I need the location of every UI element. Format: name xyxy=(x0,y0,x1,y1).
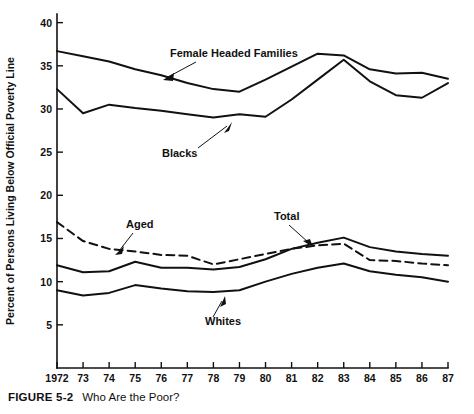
annotation-leader-aged xyxy=(119,233,133,251)
annotation-label-whites: Whites xyxy=(205,315,241,327)
y-tick-label: 30 xyxy=(40,103,52,115)
x-tick-label: 85 xyxy=(390,372,402,384)
figure-caption: FIGURE 5-2 Who Are the Poor? xyxy=(8,391,466,403)
annotation-label-female-headed-families: Female Headed Families xyxy=(170,47,298,59)
x-tick-label: 74 xyxy=(103,372,115,384)
annotation-total: Total xyxy=(274,210,313,247)
y-tick-label: 40 xyxy=(40,17,52,29)
x-tick-label: 73 xyxy=(77,372,89,384)
x-tick-label: 80 xyxy=(260,372,272,384)
y-axis-title: Percent of Persons Living Below Official… xyxy=(4,57,16,325)
x-tick-label: 77 xyxy=(181,372,193,384)
series-line-aged xyxy=(57,222,448,265)
annotation-arrow-whites xyxy=(220,296,226,307)
series-group xyxy=(57,51,448,295)
y-tick-label: 10 xyxy=(40,276,52,288)
annotation-aged: Aged xyxy=(115,218,154,255)
x-axis-tick-labels: 1972737475767778798081828384858687 xyxy=(45,372,454,384)
y-axis-ticks xyxy=(57,23,63,325)
x-tick-label: 78 xyxy=(208,372,220,384)
y-tick-label: 20 xyxy=(40,189,52,201)
figure-caption-number: FIGURE 5-2 xyxy=(8,391,73,403)
x-tick-label: 76 xyxy=(155,372,167,384)
y-axis-tick-labels: 510152025303540 xyxy=(40,17,52,331)
x-tick-label: 84 xyxy=(364,372,376,384)
annotation-label-total: Total xyxy=(274,210,299,222)
series-line-blacks xyxy=(57,60,448,118)
x-tick-label: 82 xyxy=(312,372,324,384)
x-tick-label: 79 xyxy=(234,372,246,384)
y-tick-label: 25 xyxy=(40,146,52,158)
x-axis-ticks xyxy=(57,362,448,368)
x-tick-label: 75 xyxy=(129,372,141,384)
annotation-whites: Whites xyxy=(205,296,241,327)
annotation-female-headed-families: Female Headed Families xyxy=(163,47,298,81)
figure-caption-text: Who Are the Poor? xyxy=(82,391,179,403)
annotation-label-blacks: Blacks xyxy=(162,147,197,159)
annotation-blacks: Blacks xyxy=(162,122,232,159)
figure-container: 510152025303540 197273747576777879808182… xyxy=(0,0,474,414)
y-tick-label: 5 xyxy=(46,319,52,331)
x-tick-label: 86 xyxy=(416,372,428,384)
y-tick-label: 15 xyxy=(40,232,52,244)
y-tick-label: 35 xyxy=(40,60,52,72)
x-tick-label: 83 xyxy=(338,372,350,384)
x-tick-label: 87 xyxy=(442,372,454,384)
x-tick-label: 1972 xyxy=(45,372,69,384)
annotation-leader-blacks xyxy=(198,126,227,148)
x-tick-label: 81 xyxy=(286,372,298,384)
poverty-line-chart: 510152025303540 197273747576777879808182… xyxy=(0,0,474,414)
annotation-label-aged: Aged xyxy=(126,218,154,230)
